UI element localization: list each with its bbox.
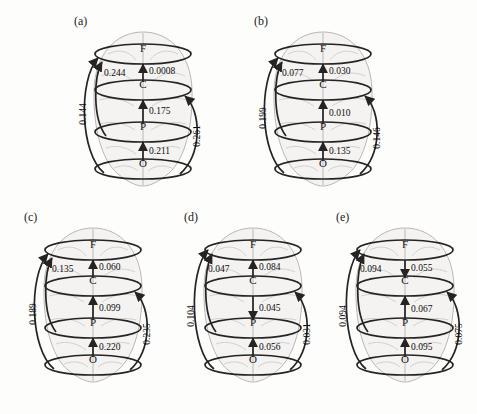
edge-label-p-f: 0.244	[104, 68, 126, 78]
edge-label-c-p: 0.045	[259, 303, 281, 313]
panel-c-diagram: F C P O 0.060 0.099 0.220 0.135 0.189 0.…	[18, 210, 168, 395]
edge-label-c-f: 0.084	[259, 262, 281, 272]
figure-root: (a) F C	[0, 0, 477, 414]
panel-d: (d) F C	[178, 210, 328, 395]
panel-d-label: (d)	[184, 210, 198, 225]
edge-label-o-f: 0.094	[338, 305, 348, 327]
edge-label-o-p: 0.135	[329, 146, 351, 156]
edge-label-p-f: 0.047	[208, 264, 230, 274]
node-label-f: F	[140, 42, 146, 54]
panel-d-diagram: F C P O 0.084 0.045 0.056 0.047 0.104 0.…	[178, 210, 328, 395]
node-label-f: F	[320, 42, 326, 54]
edge-label-p-c: 0.067	[411, 304, 433, 314]
edge-label-c-f: 0.060	[99, 262, 121, 272]
edge-label-o-f: 0.144	[78, 103, 88, 125]
panel-c: (c) F C	[18, 210, 168, 395]
edge-label-o-c: 0.235	[142, 323, 152, 345]
panel-b-diagram: F C P O 0.030 0.010 0.135 0.077 0.199 0.…	[248, 14, 398, 199]
edge-label-p-f: 0.135	[52, 264, 74, 274]
panel-b-label: (b)	[254, 14, 268, 29]
panel-e-diagram: F C P O 0.055 0.067 0.095 0.094 0.094 0.…	[330, 210, 477, 395]
node-label-f: F	[250, 238, 256, 250]
edge-label-o-c: 0.075	[454, 323, 464, 345]
node-label-f: F	[402, 238, 408, 250]
edge-label-o-f: 0.199	[258, 107, 268, 129]
edge-label-o-p: 0.211	[149, 146, 170, 156]
edge-label-p-c: 0.099	[99, 303, 121, 313]
edge-label-p-c: 0.175	[149, 106, 171, 116]
edge-label-f-c: 0.055	[411, 263, 433, 273]
panel-a-diagram: F C P O 0.0008 0.175 0.211 0.244 0.144 0…	[68, 14, 218, 199]
edge-label-o-c: 0.031	[302, 323, 312, 345]
edge-label-o-p: 0.095	[411, 342, 433, 352]
node-label-f: F	[90, 238, 96, 250]
panel-b: (b) F C	[248, 14, 398, 199]
edge-label-o-c: 0.146	[372, 127, 382, 149]
edge-label-o-p: 0.220	[99, 342, 121, 352]
panel-a-label: (a)	[74, 14, 87, 29]
edge-label-o-c: 0.261	[192, 125, 202, 147]
panel-a: (a) F C	[68, 14, 218, 199]
edge-label-o-f: 0.104	[186, 305, 196, 327]
edge-label-c-f: 0.0008	[149, 66, 175, 76]
edge-label-p-c: 0.010	[329, 108, 351, 118]
edge-label-o-p: 0.056	[259, 342, 281, 352]
edge-label-c-f: 0.030	[329, 66, 351, 76]
edge-label-o-f: 0.189	[28, 303, 38, 325]
panel-e: (e) F C	[330, 210, 477, 395]
panel-e-label: (e)	[336, 210, 349, 225]
edge-label-p-f: 0.094	[360, 264, 382, 274]
panel-c-label: (c)	[24, 210, 37, 225]
edge-label-p-f: 0.077	[282, 68, 304, 78]
